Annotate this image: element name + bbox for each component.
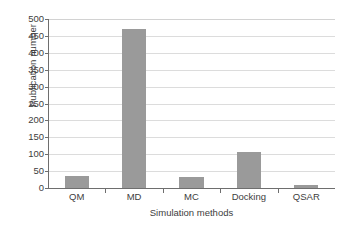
- bar-md: [122, 29, 146, 188]
- x-axis-tick-label: MC: [184, 192, 199, 202]
- y-axis-tick-mark: [45, 120, 49, 121]
- gridline: [48, 87, 335, 88]
- x-axis-tick-labels: QMMDMCDockingQSAR: [48, 192, 335, 206]
- x-axis-tick-label: QM: [69, 192, 84, 202]
- y-axis-tick-mark: [45, 171, 49, 172]
- gridline: [48, 19, 335, 20]
- y-axis-tick-mark: [45, 70, 49, 71]
- gridline: [48, 154, 335, 155]
- y-axis-tick-label: 100: [28, 149, 44, 159]
- bar-qm: [65, 176, 89, 188]
- x-axis-tick-label: MD: [127, 192, 142, 202]
- bar-chart-figure: Publication number 050100150200250300350…: [0, 0, 343, 231]
- y-axis-tick-mark: [45, 87, 49, 88]
- gridline: [48, 70, 335, 71]
- gridline: [48, 53, 335, 54]
- x-axis-title: Simulation methods: [48, 207, 335, 218]
- y-axis-tick-label: 400: [28, 48, 44, 58]
- gridline: [48, 171, 335, 172]
- gridline: [48, 120, 335, 121]
- y-axis-tick-label: 450: [28, 31, 44, 41]
- y-axis-tick-mark: [45, 53, 49, 54]
- y-axis-tick-label: 250: [28, 99, 44, 109]
- y-axis-tick-mark: [45, 188, 49, 189]
- gridline: [48, 36, 335, 37]
- y-axis-tick-label: 350: [28, 65, 44, 75]
- y-axis-tick-label: 0: [39, 183, 44, 193]
- y-axis-tick-label: 150: [28, 133, 44, 143]
- y-axis-tick-mark: [45, 137, 49, 138]
- y-axis-tick-label: 300: [28, 82, 44, 92]
- bar-mc: [179, 177, 203, 188]
- y-axis-tick-mark: [45, 104, 49, 105]
- x-axis-tick-label: QSAR: [293, 192, 320, 202]
- plot-area: [48, 19, 335, 188]
- x-axis-tick-label: Docking: [232, 192, 266, 202]
- gridline: [48, 137, 335, 138]
- y-axis-tick-label: 200: [28, 116, 44, 126]
- y-axis-tick-mark: [45, 19, 49, 20]
- y-axis-tick-mark: [45, 36, 49, 37]
- y-axis-tick-mark: [45, 154, 49, 155]
- y-axis-tick-label: 500: [28, 14, 44, 24]
- y-axis-tick-labels: 050100150200250300350400450500: [16, 19, 44, 188]
- y-axis-tick-label: 50: [33, 166, 44, 176]
- x-axis-line: [48, 188, 335, 189]
- gridline: [48, 104, 335, 105]
- bar-docking: [237, 152, 261, 188]
